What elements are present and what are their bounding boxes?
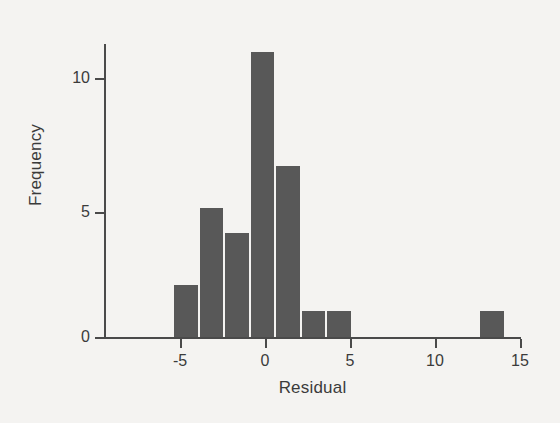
x-tick-label-0: 0 (243, 352, 287, 370)
y-tick-label-5: 5 (50, 204, 90, 220)
histogram-bar (173, 285, 199, 337)
y-tick-10 (95, 78, 104, 80)
histogram-bar (326, 311, 352, 337)
histogram-bar (479, 311, 505, 337)
y-tick-5 (95, 212, 104, 214)
x-tick-label-15: 15 (498, 352, 542, 370)
histogram-bar (275, 166, 301, 337)
x-axis-line (104, 337, 521, 339)
y-tick-label-0: 0 (50, 329, 90, 345)
x-axis-title: Residual (104, 378, 521, 398)
plot-area: 0 5 10 -5 0 5 10 15 Residual Frequency (0, 0, 560, 423)
histogram-figure: 0 5 10 -5 0 5 10 15 Residual Frequency (0, 0, 560, 423)
y-axis-line (104, 44, 106, 339)
x-tick-15 (520, 339, 522, 348)
histogram-bar (224, 233, 250, 337)
x-tick-label-minus5: -5 (158, 352, 202, 370)
histogram-bar (250, 52, 276, 337)
y-tick-0 (95, 337, 104, 339)
y-tick-label-10: 10 (50, 70, 90, 86)
x-tick-10 (435, 339, 437, 348)
x-tick-label-5: 5 (328, 352, 372, 370)
y-axis-title: Frequency (26, 85, 46, 245)
histogram-bar (301, 311, 327, 337)
x-tick-0 (265, 339, 267, 348)
x-tick-minus5 (180, 339, 182, 348)
histogram-bar (199, 208, 225, 338)
x-tick-5 (350, 339, 352, 348)
x-tick-label-10: 10 (413, 352, 457, 370)
